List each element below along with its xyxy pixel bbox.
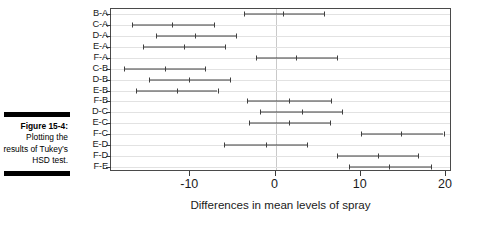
y-axis-tick — [106, 58, 111, 59]
interval-cap-upper-f-c — [444, 132, 445, 137]
plot-panel — [110, 8, 451, 171]
mean-difference-point-f-d — [378, 153, 379, 158]
mean-difference-point-e-a — [184, 45, 185, 50]
figure-page: Figure 15-4: Plotting the results of Tuk… — [0, 0, 477, 229]
interval-cap-lower-d-b — [149, 77, 150, 82]
zero-reference-line — [276, 9, 277, 170]
x-axis-tick — [189, 171, 190, 176]
y-axis-tick — [106, 112, 111, 113]
interval-cap-upper-f-b — [331, 99, 332, 104]
interval-cap-lower-f-e — [349, 164, 350, 169]
y-axis-tick — [106, 36, 111, 37]
mean-difference-point-f-b — [289, 99, 290, 104]
y-axis-tick — [106, 156, 111, 157]
mean-difference-point-c-b — [165, 66, 166, 71]
interval-cap-lower-e-b — [136, 88, 137, 93]
y-axis-tick — [106, 47, 111, 48]
x-axis-tick-label: 0 — [271, 177, 278, 191]
interval-cap-lower-f-c — [361, 132, 362, 137]
mean-difference-point-c-a — [172, 23, 173, 28]
mean-difference-point-f-a — [296, 55, 297, 60]
mean-difference-point-e-d — [266, 142, 267, 147]
interval-cap-upper-d-a — [236, 34, 237, 39]
interval-cap-lower-e-c — [249, 121, 250, 126]
interval-cap-upper-d-c — [342, 110, 343, 115]
interval-cap-lower-d-a — [156, 34, 157, 39]
x-axis-tick — [275, 171, 276, 176]
interval-cap-lower-e-d — [224, 142, 225, 147]
interval-cap-upper-f-a — [337, 55, 338, 60]
x-axis-tick-label: 20 — [438, 177, 452, 191]
interval-cap-upper-c-a — [214, 23, 215, 28]
y-axis-tick — [106, 134, 111, 135]
y-axis-tick — [106, 123, 111, 124]
interval-cap-lower-c-a — [132, 23, 133, 28]
interval-cap-upper-c-b — [205, 66, 206, 71]
mean-difference-point-d-a — [195, 34, 196, 39]
mean-difference-point-e-c — [289, 121, 290, 126]
y-axis-tick — [106, 14, 111, 15]
interval-cap-lower-f-b — [247, 99, 248, 104]
y-axis-tick — [106, 80, 111, 81]
y-axis-tick — [106, 167, 111, 168]
x-axis-tick — [360, 171, 361, 176]
mean-difference-point-d-b — [189, 77, 190, 82]
interval-cap-upper-f-d — [418, 153, 419, 158]
y-axis-tick — [106, 69, 111, 70]
mean-difference-point-e-b — [177, 88, 178, 93]
interval-cap-upper-e-d — [307, 142, 308, 147]
interval-cap-lower-d-c — [260, 110, 261, 115]
y-axis-tick — [106, 145, 111, 146]
interval-cap-lower-f-a — [256, 55, 257, 60]
x-axis-tick-label: -10 — [180, 177, 198, 191]
mean-difference-point-b-a — [283, 12, 284, 17]
y-axis-category-labels: B-AC-AD-AE-AF-AC-BD-BE-BF-BD-CE-CF-CE-DF… — [74, 8, 108, 171]
mean-difference-point-f-c — [401, 132, 402, 137]
interval-cap-upper-e-c — [330, 121, 331, 126]
x-axis-tick-labels: -1001020 — [110, 177, 451, 193]
mean-difference-point-d-c — [302, 110, 303, 115]
tukey-hsd-chart: B-AC-AD-AE-AF-AC-BD-BE-BF-BD-CE-CF-CE-DF… — [0, 0, 477, 229]
y-axis-tick — [106, 25, 111, 26]
interval-cap-lower-e-a — [143, 45, 144, 50]
interval-cap-lower-c-b — [124, 66, 125, 71]
x-axis-tick — [445, 171, 446, 176]
interval-cap-lower-f-d — [337, 153, 338, 158]
confidence-interval-f-c — [361, 134, 444, 135]
interval-cap-upper-b-a — [324, 12, 325, 17]
interval-cap-upper-d-b — [230, 77, 231, 82]
x-axis-tick-label: 10 — [353, 177, 367, 191]
x-axis-title: Differences in mean levels of spray — [110, 198, 451, 211]
y-axis-tick — [106, 91, 111, 92]
y-axis-tick — [106, 101, 111, 102]
interval-cap-upper-e-b — [218, 88, 219, 93]
interval-cap-lower-b-a — [244, 12, 245, 17]
mean-difference-point-f-e — [389, 164, 390, 169]
interval-cap-upper-e-a — [225, 45, 226, 50]
interval-cap-upper-f-e — [431, 164, 432, 169]
confidence-interval-c-a — [132, 25, 215, 26]
